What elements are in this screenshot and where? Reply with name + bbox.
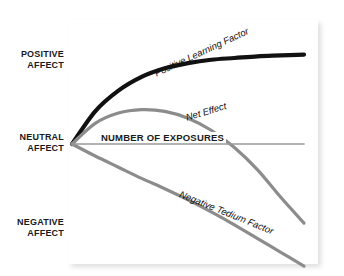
y-axis-label-negative: NEGATIVE AFFECT bbox=[0, 217, 64, 239]
chart-figure: POSITIVE AFFECT NEUTRAL AFFECT NEGATIVE … bbox=[0, 0, 344, 276]
y-axis-label-neutral-line2: AFFECT bbox=[0, 143, 64, 154]
y-axis-label-positive: POSITIVE AFFECT bbox=[0, 49, 64, 71]
y-axis-label-neutral: NEUTRAL AFFECT bbox=[0, 132, 64, 154]
y-axis-label-negative-line2: AFFECT bbox=[0, 228, 64, 239]
y-axis-label-positive-line2: AFFECT bbox=[0, 60, 64, 71]
x-axis-label-number-of-exposures: NUMBER OF EXPOSURES bbox=[99, 132, 226, 143]
y-axis-label-neutral-line1: NEUTRAL bbox=[0, 132, 64, 143]
y-axis-label-positive-line1: POSITIVE bbox=[0, 49, 64, 60]
y-axis-label-negative-line1: NEGATIVE bbox=[0, 217, 64, 228]
